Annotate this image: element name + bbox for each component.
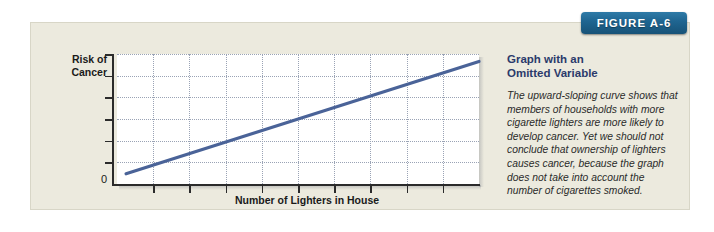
y-axis-tick — [105, 54, 113, 56]
y-axis-tick — [105, 162, 113, 164]
plot-shadow-right — [479, 57, 484, 187]
axis-origin-label: 0 — [95, 173, 107, 185]
y-axis-tick — [105, 141, 113, 143]
x-axis-line — [112, 184, 480, 186]
x-axis-tick — [407, 186, 409, 193]
x-axis-title: Number of Lighters in House — [235, 194, 379, 206]
caption-body: The upward-sloping curve shows that memb… — [507, 89, 679, 198]
data-series-line — [117, 54, 479, 184]
y-axis-tick — [105, 119, 113, 121]
x-axis-tick — [443, 186, 445, 193]
x-axis-tick — [262, 186, 264, 193]
figure-number-badge: FIGURE A-6 — [581, 12, 687, 34]
x-axis-tick — [334, 186, 336, 193]
y-axis-title-line-0: Risk of — [45, 53, 107, 66]
plot-area — [117, 54, 479, 184]
figure-badge-label: FIGURE A-6 — [597, 17, 672, 29]
y-axis-tick — [105, 97, 113, 99]
x-axis-tick — [370, 186, 372, 193]
caption-heading: Graph with an Omitted Variable — [507, 53, 679, 80]
figure-card: Risk ofCancer 0 Number of Lighters in Ho… — [30, 22, 690, 210]
chart-container: Risk ofCancer 0 Number of Lighters in Ho… — [45, 49, 495, 199]
caption-panel: Graph with an Omitted Variable The upwar… — [507, 53, 679, 198]
y-axis-tick — [105, 76, 113, 78]
x-axis-tick — [298, 186, 300, 193]
y-axis-title: Risk ofCancer — [45, 53, 107, 78]
x-axis-tick — [189, 186, 191, 193]
x-axis-tick — [153, 186, 155, 193]
y-axis-title-line-1: Cancer — [45, 66, 107, 79]
x-axis-tick — [226, 186, 228, 193]
